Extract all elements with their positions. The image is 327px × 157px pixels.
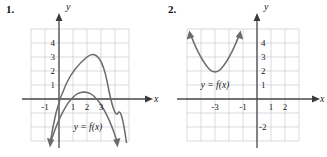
y-tick-1: 1 bbox=[261, 80, 266, 90]
y-tick-1: 1 bbox=[51, 80, 56, 90]
function-label: y = f(x) bbox=[200, 80, 230, 91]
curve-right-arrow bbox=[113, 138, 120, 148]
x-axis-letter: x bbox=[320, 93, 324, 104]
y-tick-3: 3 bbox=[261, 52, 266, 62]
y-tick-3: 3 bbox=[51, 52, 56, 62]
x-tick-neg1: -1 bbox=[239, 102, 247, 112]
x-axis-arrow bbox=[312, 96, 320, 103]
curve-right-arrow bbox=[236, 31, 244, 40]
x-axis-arrow bbox=[145, 96, 153, 103]
problem-1-panel: 1. bbox=[0, 0, 163, 157]
y-tick-4: 4 bbox=[51, 38, 56, 48]
problem-2-graph: 4 3 2 1 -2 -3 -1 1 2 y = f(x) bbox=[163, 0, 326, 157]
x-tick-2: 2 bbox=[85, 102, 90, 112]
x-tick-labels: -3 -1 1 2 bbox=[211, 102, 287, 112]
function-label: y = f(x) bbox=[73, 122, 103, 133]
x-tick-neg1: -1 bbox=[41, 102, 49, 112]
x-axis-letter: x bbox=[154, 93, 158, 104]
problem-2-panel: 2. bbox=[163, 0, 326, 157]
y-tick-labels: 4 3 2 1 -2 bbox=[259, 38, 267, 132]
y-axis-letter: y bbox=[66, 1, 70, 12]
x-tick-1: 1 bbox=[269, 102, 274, 112]
y-axis-arrow bbox=[56, 13, 63, 21]
problem-1-graph: 4 3 2 1 -1 1 2 3 y = f(x) bbox=[0, 0, 163, 157]
y-tick-2: 2 bbox=[51, 66, 56, 76]
x-tick-2: 2 bbox=[283, 102, 288, 112]
y-axis-letter: y bbox=[264, 1, 268, 12]
x-tick-3: 3 bbox=[99, 102, 104, 112]
x-tick-labels: -1 1 2 3 bbox=[41, 102, 104, 112]
worksheet-page: 1. bbox=[0, 0, 327, 157]
y-tick-4: 4 bbox=[261, 38, 266, 48]
y-tick-neg2: -2 bbox=[259, 122, 267, 132]
curve-left-arrow bbox=[47, 138, 54, 148]
y-tick-2: 2 bbox=[261, 66, 266, 76]
y-axis-arrow bbox=[254, 13, 261, 21]
x-tick-neg3: -3 bbox=[211, 102, 219, 112]
curve-left-arrow bbox=[187, 31, 195, 40]
y-tick-labels: 4 3 2 1 bbox=[51, 38, 56, 90]
x-tick-1: 1 bbox=[71, 102, 76, 112]
